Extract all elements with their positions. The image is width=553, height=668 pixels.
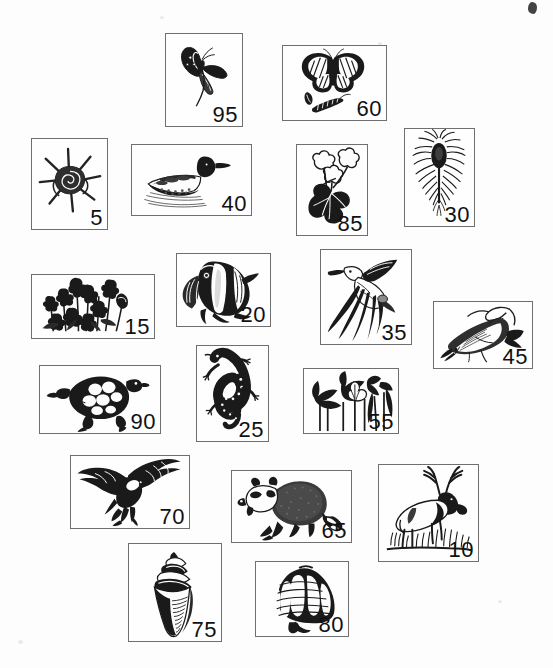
illustration-card[interactable]: 55	[303, 368, 399, 434]
illustration-card[interactable]: 85	[296, 144, 368, 236]
illustration-card[interactable]: 20	[176, 253, 271, 327]
illustration-card[interactable]: 95	[165, 33, 243, 127]
card-number: 10	[449, 538, 474, 561]
card-number: 20	[241, 303, 266, 326]
card-number: 90	[131, 410, 156, 433]
scan-speck	[18, 640, 23, 644]
illustration-card[interactable]: 80	[255, 561, 349, 637]
card-number: 60	[357, 97, 382, 120]
illustration-card[interactable]: 30	[404, 128, 475, 227]
illustration-card[interactable]: 5	[31, 138, 108, 230]
scan-speck	[160, 16, 164, 19]
illustration-card[interactable]: 45	[433, 301, 533, 369]
ink-smudge	[528, 2, 537, 14]
illustration-card[interactable]: 15	[31, 274, 155, 339]
card-number: 15	[125, 315, 150, 338]
illustration-card[interactable]: 75	[128, 543, 222, 642]
card-number: 65	[322, 519, 347, 542]
illustration-card[interactable]: 25	[196, 345, 269, 442]
card-sheet: 95	[0, 0, 553, 668]
card-number: 70	[160, 505, 185, 528]
card-number: 5	[90, 206, 103, 229]
card-number: 75	[192, 618, 217, 641]
card-number: 80	[319, 613, 344, 636]
illustration-card[interactable]: 65	[231, 470, 352, 543]
illustration-card[interactable]: 35	[320, 249, 412, 345]
illustration-card[interactable]: 90	[39, 365, 161, 434]
illustration-card[interactable]: 70	[70, 455, 190, 529]
card-number: 35	[382, 321, 407, 344]
card-number: 45	[503, 345, 528, 368]
card-number: 95	[213, 103, 238, 126]
card-number: 25	[239, 418, 264, 441]
card-number: 40	[222, 192, 247, 215]
illustration-card[interactable]: 40	[131, 144, 252, 216]
scan-speck	[498, 600, 502, 603]
card-number: 85	[338, 212, 363, 235]
illustration-card[interactable]: 10	[378, 464, 479, 562]
card-number: 30	[445, 203, 470, 226]
card-number: 55	[369, 410, 394, 433]
illustration-card[interactable]: 60	[282, 45, 387, 121]
